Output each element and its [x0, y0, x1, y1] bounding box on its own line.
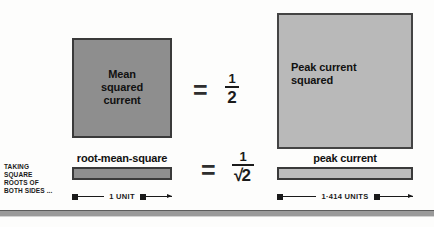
arrow-right-icon [140, 196, 172, 197]
taking-square-roots-caption: TAKING SQUARE ROOTS OF BOTH SIDES ... [4, 163, 64, 195]
square-root-icon: √2 [234, 167, 252, 184]
dimension-right-text: 1·414 UNITS [321, 192, 368, 201]
mean-squared-current-label: Mean squared current [74, 68, 170, 107]
dimension-left-text: 1 UNIT [109, 192, 135, 201]
dimension-line-1414-units: 1·414 UNITS [277, 192, 413, 201]
root-mean-square-bar [72, 167, 172, 180]
fraction-numerator: 1 [222, 72, 242, 86]
peak-current-label: peak current [277, 152, 413, 164]
caption-line-4: BOTH SIDES ... [4, 187, 64, 195]
dimension-line-one-unit: 1 UNIT [72, 192, 172, 201]
caption-line-2: SQUARE [4, 171, 64, 179]
caption-line-3: ROOTS OF [4, 179, 64, 187]
mean-squared-line-1: Mean [74, 68, 170, 81]
peak-squared-line-2: squared [291, 74, 405, 87]
mean-squared-line-3: current [74, 94, 170, 107]
caption-line-1: TAKING [4, 163, 64, 171]
mean-squared-current-square: Mean squared current [72, 38, 172, 138]
arrow-right-icon [374, 196, 413, 197]
equals-sign-bottom: = [201, 158, 216, 183]
fraction-denominator: 2 [222, 88, 242, 106]
arrow-left-icon [277, 196, 316, 197]
peak-current-squared-square: Peak current squared [277, 13, 413, 149]
equals-sign-top: = [193, 78, 208, 103]
fraction-denominator-radical: √2 [228, 166, 258, 184]
radicand: 2 [241, 164, 251, 185]
arrow-left-icon [72, 196, 104, 197]
peak-current-bar [277, 167, 413, 180]
peak-current-squared-label: Peak current squared [291, 61, 405, 87]
mean-squared-line-2: squared [74, 81, 170, 94]
fraction-numerator: 1 [228, 150, 258, 164]
fraction-one-over-root-two: 1 √2 [228, 150, 258, 184]
fraction-one-half: 1 2 [222, 72, 242, 106]
peak-squared-line-1: Peak current [291, 61, 405, 74]
bottom-divider [0, 210, 434, 217]
diagram-canvas: Mean squared current = 1 2 Peak current … [0, 0, 434, 227]
root-mean-square-label: root-mean-square [62, 152, 182, 164]
